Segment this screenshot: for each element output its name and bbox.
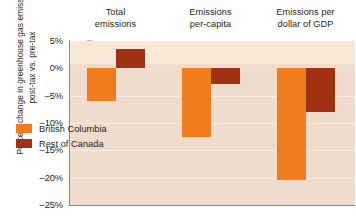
- plot-background-above-zero: [70, 41, 355, 64]
- group-header-line1: Emissions per: [251, 6, 356, 18]
- gridline: [70, 178, 355, 179]
- legend-swatch: [16, 139, 32, 148]
- legend-swatch: [16, 124, 32, 133]
- group-header: Emissionsper-capita: [156, 6, 266, 30]
- group-header-line2: per-capita: [156, 18, 266, 30]
- bar-british-columbia[interactable]: [87, 68, 116, 101]
- group-header: Totalemissions: [61, 6, 171, 30]
- gridline: [70, 150, 355, 151]
- group-header-line2: emissions: [61, 18, 171, 30]
- group-header-line1: Emissions: [156, 6, 266, 18]
- legend-item[interactable]: Rest of Canada: [16, 136, 107, 151]
- y-axis-tick-label: –20%: [23, 173, 63, 183]
- group-header-line1: Total: [61, 6, 171, 18]
- y-axis-tick-label: –5%: [23, 91, 63, 101]
- bar-rest-of-canada[interactable]: [116, 49, 145, 68]
- legend-label: Rest of Canada: [39, 139, 104, 149]
- legend-label: British Columbia: [39, 124, 107, 134]
- y-axis-tick-label: 5%: [23, 36, 63, 46]
- y-axis-tick-label: 0%: [23, 63, 63, 73]
- x-axis-line: [69, 205, 355, 206]
- legend-item[interactable]: British Columbia: [16, 121, 107, 136]
- chart-legend: British ColumbiaRest of Canada: [16, 121, 107, 151]
- bar-british-columbia[interactable]: [277, 68, 306, 180]
- plot-area: [70, 41, 355, 205]
- group-header-line2: dollar of GDP: [251, 18, 356, 30]
- bar-british-columbia[interactable]: [182, 68, 211, 136]
- gridline: [70, 123, 355, 124]
- bar-chart: Percent change in greenhouse gas emissio…: [0, 0, 356, 219]
- y-axis-tick-label: –25%: [23, 200, 63, 210]
- bar-rest-of-canada[interactable]: [211, 68, 240, 83]
- bar-rest-of-canada[interactable]: [306, 68, 335, 112]
- y-axis-tick-labels: 5%0%–5%–10%–15%–20%–25%: [23, 0, 63, 219]
- group-header: Emissions perdollar of GDP: [251, 6, 356, 30]
